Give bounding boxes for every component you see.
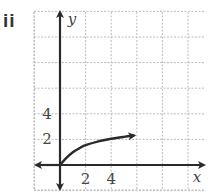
curve [60, 136, 134, 165]
x-tick-label: 4 [106, 170, 116, 188]
y-axis-label: y [67, 10, 77, 28]
x-tick-label: 2 [81, 170, 91, 188]
x-axis-label: x [193, 168, 202, 186]
curve-path [60, 136, 134, 165]
y-tick-label: 4 [42, 105, 52, 123]
function-graph: 2424xy [0, 0, 208, 193]
y-tick-label: 2 [42, 130, 52, 148]
